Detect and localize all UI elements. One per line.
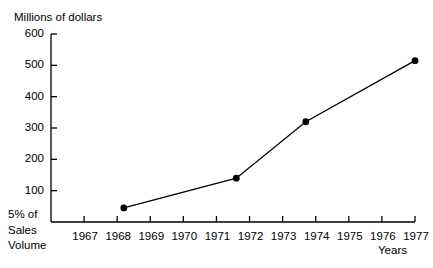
y-axis-tick-label: 600 (10, 27, 44, 39)
origin-baseline-label: 5% of Sales Volume (8, 207, 46, 254)
y-axis-title: Millions of dollars (14, 11, 102, 23)
data-point-marker (302, 118, 309, 125)
x-axis-ticks (84, 216, 415, 222)
y-axis-ticks (51, 34, 57, 191)
data-series-line (124, 61, 415, 208)
origin-label-line-3: Volume (8, 238, 46, 254)
y-axis-tick-label: 500 (10, 58, 44, 70)
data-point-markers (120, 57, 418, 211)
data-point-marker (233, 175, 240, 182)
y-axis-tick-label: 400 (10, 90, 44, 102)
origin-label-line-2: Sales (8, 223, 46, 239)
x-axis-tick-label: 1977 (396, 230, 433, 242)
chart-axes (51, 34, 415, 222)
x-axis-title: Years (378, 244, 407, 256)
y-axis-tick-label: 200 (10, 152, 44, 164)
data-point-marker (120, 205, 127, 212)
y-axis-tick-label: 300 (10, 121, 44, 133)
origin-label-line-1: 5% of (8, 207, 46, 223)
data-point-marker (412, 57, 419, 64)
y-axis-tick-label: 100 (10, 184, 44, 196)
